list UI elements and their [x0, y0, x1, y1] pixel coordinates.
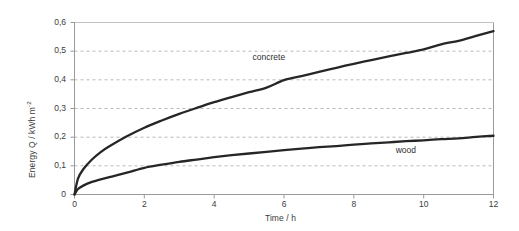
y-tick-label: 0,4 [26, 74, 66, 84]
y-axis-title: Energy Q / kWh m-2 [27, 101, 37, 178]
x-tick-label: 10 [419, 199, 428, 209]
x-tick-label: 0 [72, 199, 77, 209]
y-tick-marks [71, 23, 75, 195]
x-tick-label: 6 [282, 199, 287, 209]
x-tick-label: 8 [351, 199, 356, 209]
y-axis-title-exponent: -2 [25, 101, 32, 107]
x-tick-marks [75, 195, 494, 199]
y-tick-label: 0,6 [26, 17, 66, 27]
x-tick-label: 12 [489, 199, 498, 209]
curve-wood [75, 136, 494, 195]
y-tick-label: 0,5 [26, 45, 66, 55]
y-tick-label: 0 [26, 189, 66, 199]
plot-area [0, 0, 519, 231]
x-axis-title: Time / h [0, 213, 519, 223]
series-label-wood: wood [396, 145, 416, 155]
x-tick-label: 2 [142, 199, 147, 209]
x-tick-label-group: 024681012 [0, 199, 519, 213]
y-axis-title-text: Energy Q / kWh m [27, 107, 37, 178]
energy-vs-time-chart: 00,10,20,30,40,50,6 024681012 Energy Q /… [0, 0, 519, 231]
series-label-concrete: concrete [253, 52, 286, 62]
gridlines [75, 51, 494, 166]
x-axis-title-text: Time / h [223, 213, 296, 223]
x-tick-label: 4 [212, 199, 217, 209]
